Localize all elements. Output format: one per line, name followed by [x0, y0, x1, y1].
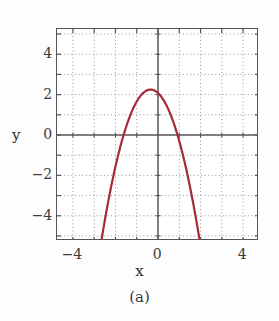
figure-caption: (a)	[0, 288, 279, 306]
y-tick-label: −4	[30, 208, 52, 222]
x-tick-label: 4	[225, 247, 259, 261]
plot-frame	[56, 28, 258, 240]
plot-area	[57, 29, 257, 239]
y-tick-label: 4	[30, 46, 52, 60]
y-axis-title: y	[12, 126, 20, 144]
y-tick-label: 0	[30, 127, 52, 141]
plot-svg	[57, 29, 257, 239]
y-tick-label: 2	[30, 87, 52, 101]
x-tick-label: −4	[55, 247, 89, 261]
figure-panel: −4−2024 −404 y x (a)	[0, 0, 279, 321]
figure-caption-text: (a)	[129, 288, 150, 306]
y-tick-label: −2	[30, 167, 52, 181]
y-axis-tick-labels: −4−2024	[26, 28, 52, 240]
x-axis-title: x	[0, 262, 279, 280]
x-axis-title-text: x	[135, 262, 143, 280]
x-tick-label: 0	[140, 247, 174, 261]
